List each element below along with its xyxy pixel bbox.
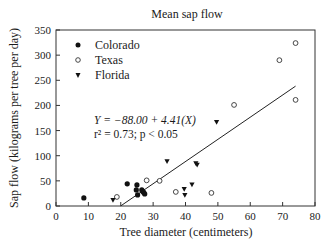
data-point-texas xyxy=(293,97,298,102)
chart-title: Mean sap flow xyxy=(151,7,223,21)
y-tick-label: 300 xyxy=(35,49,52,61)
data-point-colorado xyxy=(142,191,147,196)
legend-colorado-marker xyxy=(76,43,81,48)
legend-texas-label: Texas xyxy=(95,53,123,67)
x-tick-label: 30 xyxy=(148,210,160,222)
y-tick-label: 150 xyxy=(35,125,52,137)
x-tick-label: 20 xyxy=(115,210,127,222)
y-tick-label: 250 xyxy=(35,74,52,86)
data-point-texas xyxy=(173,190,178,195)
regression-equation: Y = −88.00 + 4.41(X) xyxy=(94,114,196,127)
data-point-texas xyxy=(209,191,214,196)
legend-texas-marker xyxy=(76,58,81,63)
data-point-colorado xyxy=(134,187,139,192)
data-point-florida xyxy=(110,198,115,203)
legend: Colorado Texas Florida xyxy=(76,38,140,82)
scatter-chart: Mean sap flow 050100150200250300350 0102… xyxy=(0,0,330,250)
y-tick-label: 100 xyxy=(35,150,52,162)
regression-r2: r² = 0.73; p < 0.05 xyxy=(94,128,178,141)
data-point-florida xyxy=(164,159,169,164)
data-point-colorado xyxy=(135,192,140,197)
data-point-florida xyxy=(195,163,200,168)
data-point-florida xyxy=(182,187,187,192)
data-point-texas xyxy=(232,103,237,108)
data-point-texas xyxy=(277,58,282,63)
data-point-colorado xyxy=(134,182,139,187)
x-tick-label: 50 xyxy=(212,210,224,222)
data-point-colorado xyxy=(81,195,86,200)
data-point-texas xyxy=(157,178,162,183)
data-point-florida xyxy=(189,182,194,187)
x-axis-label: Tree diameter (centimeters) xyxy=(120,225,253,239)
legend-florida-label: Florida xyxy=(95,68,130,82)
x-tick-label: 40 xyxy=(180,210,192,222)
data-point-colorado xyxy=(125,181,130,186)
data-point-florida xyxy=(214,120,219,125)
y-tick-label: 200 xyxy=(35,99,52,111)
legend-florida-marker xyxy=(76,73,81,78)
y-tick-label: 50 xyxy=(40,175,52,187)
regression-line xyxy=(121,86,296,206)
data-point-florida xyxy=(182,193,187,198)
data-point-texas xyxy=(293,41,298,46)
x-tick-label: 0 xyxy=(53,210,59,222)
y-axis-label: Sap flow (kilograms per tree per day) xyxy=(7,28,21,208)
y-tick-label: 350 xyxy=(35,24,52,36)
y-tick-label: 0 xyxy=(46,200,52,212)
x-tick-label: 70 xyxy=(277,210,289,222)
x-tick-label: 60 xyxy=(245,210,257,222)
legend-colorado-label: Colorado xyxy=(95,38,140,52)
x-tick-label: 80 xyxy=(310,210,322,222)
data-point-texas xyxy=(144,178,149,183)
x-tick-label: 10 xyxy=(83,210,95,222)
x-axis: 01020304050607080 xyxy=(53,202,321,222)
